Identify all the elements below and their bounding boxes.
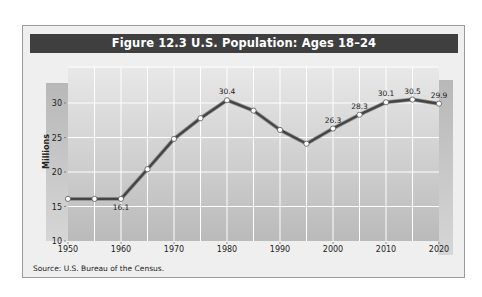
y-tick-label: 20 bbox=[52, 168, 62, 177]
source-note: Source: U.S. Bureau of the Census. bbox=[33, 264, 164, 273]
x-tick-label: 1990 bbox=[270, 245, 290, 254]
data-point-marker bbox=[410, 97, 415, 102]
data-point-marker bbox=[277, 127, 282, 132]
y-axis-label: Millions bbox=[42, 132, 51, 172]
data-point-marker bbox=[145, 167, 150, 172]
data-point-marker bbox=[224, 98, 229, 103]
data-label: 16.1 bbox=[113, 203, 130, 212]
x-tick-label: 2000 bbox=[323, 245, 343, 254]
data-point-marker bbox=[436, 101, 441, 106]
line-chart: 1015202530 19501960197019801990200020102… bbox=[0, 0, 482, 297]
data-label: 30.1 bbox=[378, 89, 395, 98]
y-tick-label: 30 bbox=[52, 99, 62, 108]
data-point-marker bbox=[330, 126, 335, 131]
x-tick-label: 2010 bbox=[376, 245, 396, 254]
x-tick-label: 2020 bbox=[429, 245, 449, 254]
x-tick-label: 1970 bbox=[164, 245, 184, 254]
data-point-marker bbox=[251, 108, 256, 113]
data-label: 30.5 bbox=[404, 87, 421, 96]
data-point-marker bbox=[304, 141, 309, 146]
data-point-marker bbox=[92, 196, 97, 201]
data-label: 26.3 bbox=[325, 116, 342, 125]
x-axis: 19501960197019801990200020102020 bbox=[58, 242, 449, 254]
data-point-marker bbox=[383, 100, 388, 105]
data-label: 28.3 bbox=[351, 102, 368, 111]
x-tick-label: 1980 bbox=[217, 245, 237, 254]
y-tick-label: 15 bbox=[52, 203, 62, 212]
x-tick-label: 1950 bbox=[58, 245, 78, 254]
x-tick-label: 1960 bbox=[111, 245, 131, 254]
data-point-marker bbox=[171, 136, 176, 141]
data-point-marker bbox=[65, 196, 70, 201]
data-point-marker bbox=[198, 116, 203, 121]
data-point-marker bbox=[118, 196, 123, 201]
data-point-marker bbox=[357, 112, 362, 117]
data-label: 30.4 bbox=[219, 87, 236, 96]
data-label: 29.9 bbox=[431, 91, 448, 100]
y-tick-label: 25 bbox=[52, 134, 62, 143]
